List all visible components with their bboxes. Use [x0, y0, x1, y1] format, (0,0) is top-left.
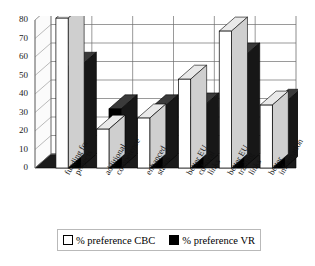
y-axis-tick-0: 0 — [2, 163, 28, 172]
chart-page: 80706050403020100 funding forprojectsadd… — [0, 0, 315, 266]
y-axis-tick-70: 70 — [2, 34, 28, 43]
legend-label-cbc: % preference CBC — [76, 235, 155, 246]
plot-area — [33, 16, 298, 169]
white-square-icon — [63, 235, 73, 245]
cropped-title-artifact — [28, 0, 258, 7]
y-axis-tick-80: 80 — [2, 15, 28, 24]
legend-label-vr: % preference VR — [182, 235, 255, 246]
legend-item-vr: % preference VR — [169, 235, 255, 246]
y-axis-tick-50: 50 — [2, 71, 28, 80]
y-axis-tick-40: 40 — [2, 89, 28, 98]
y-axis-tick-20: 20 — [2, 126, 28, 135]
y-axis-tick-30: 30 — [2, 108, 28, 117]
legend-item-cbc: % preference CBC — [63, 235, 155, 246]
y-axis-tick-10: 10 — [2, 145, 28, 154]
y-axis-labels: 80706050403020100 — [0, 0, 33, 190]
y-axis-tick-60: 60 — [2, 52, 28, 61]
black-square-icon — [169, 235, 179, 245]
chart-legend: % preference CBC % preference VR — [57, 229, 261, 251]
x-axis-labels: funding forprojectsadditionalcompetencee… — [33, 170, 298, 232]
